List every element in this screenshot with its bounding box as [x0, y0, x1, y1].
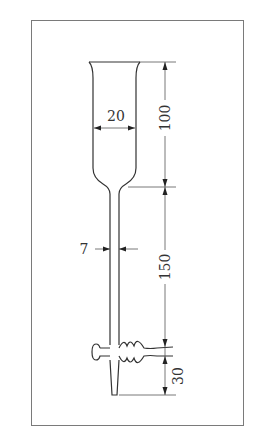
stem-length-label: 150 — [157, 254, 173, 281]
funnel-tube-diagram: 20 7 100 150 30 — [0, 0, 260, 436]
dimension-cup-width: 20 — [94, 108, 135, 131]
stem-width-label: 7 — [80, 241, 89, 257]
cup-width-label: 20 — [107, 108, 125, 124]
diagram-frame — [32, 21, 244, 426]
tip-length-label: 30 — [170, 367, 186, 385]
dimension-stem-width: 7 — [80, 241, 138, 257]
cup-height-label: 100 — [157, 105, 173, 132]
